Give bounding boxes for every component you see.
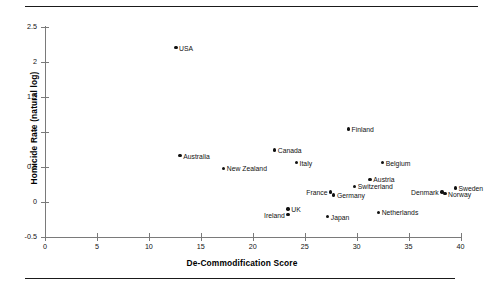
data-point-label: Japan bbox=[331, 213, 350, 220]
data-point-label: Australia bbox=[183, 152, 209, 159]
y-tick-mark bbox=[41, 97, 49, 98]
data-point bbox=[332, 193, 335, 196]
data-point-label: Belgium bbox=[386, 159, 411, 166]
x-tick-label: 35 bbox=[394, 243, 424, 252]
x-tick-mark bbox=[461, 233, 462, 241]
x-tick-label-text: 10 bbox=[134, 243, 164, 251]
data-point-label: Sweden bbox=[459, 184, 484, 191]
x-tick-label: 0 bbox=[30, 243, 60, 252]
x-axis-title: De-Commodification Score bbox=[0, 258, 484, 268]
data-point bbox=[326, 215, 329, 218]
data-point-label: Austria bbox=[373, 176, 394, 183]
figure-container: -0.500.511.522.5 0510152025303540 USAAus… bbox=[0, 0, 484, 287]
y-tick-mark bbox=[41, 202, 49, 203]
y-tick-label: -0.5 bbox=[0, 233, 37, 241]
data-point-label: France bbox=[306, 189, 327, 196]
x-tick-mark bbox=[149, 233, 150, 241]
x-tick-label-text: 0 bbox=[30, 243, 60, 251]
data-point bbox=[286, 213, 289, 216]
data-point bbox=[443, 192, 446, 195]
x-tick-label: 10 bbox=[134, 243, 164, 252]
x-tick-label: 15 bbox=[186, 243, 216, 252]
x-tick-label-text: 20 bbox=[238, 243, 268, 251]
data-point bbox=[174, 46, 177, 49]
x-tick-label: 20 bbox=[238, 243, 268, 252]
data-point bbox=[381, 161, 384, 164]
y-tick-mark bbox=[41, 27, 49, 28]
y-tick-mark bbox=[41, 167, 49, 168]
x-tick-label-text: 15 bbox=[186, 243, 216, 251]
data-point-label: USA bbox=[179, 44, 193, 51]
data-point-label: Denmark bbox=[411, 189, 439, 196]
y-tick-mark bbox=[41, 132, 49, 133]
x-tick-label-text: 35 bbox=[394, 243, 424, 251]
x-tick-label: 30 bbox=[342, 243, 372, 252]
x-tick-label-text: 25 bbox=[290, 243, 320, 251]
x-tick-label-text: 5 bbox=[82, 243, 112, 251]
x-tick-mark bbox=[45, 233, 46, 241]
x-tick-mark bbox=[97, 233, 98, 241]
x-tick-label: 25 bbox=[290, 243, 320, 252]
x-tick-label-text: 40 bbox=[446, 243, 476, 251]
x-tick-mark bbox=[305, 233, 306, 241]
x-tick-label: 5 bbox=[82, 243, 112, 252]
x-tick-mark bbox=[409, 233, 410, 241]
x-tick-mark bbox=[253, 233, 254, 241]
data-point-label: Finland bbox=[352, 125, 374, 132]
data-point bbox=[368, 178, 371, 181]
data-point bbox=[222, 167, 225, 170]
data-point bbox=[273, 148, 276, 151]
data-point bbox=[286, 207, 289, 210]
data-point-label: Italy bbox=[300, 159, 312, 166]
data-point-label: New Zealand bbox=[227, 165, 267, 172]
x-tick-mark bbox=[201, 233, 202, 241]
data-point bbox=[353, 185, 356, 188]
y-axis-title: Homicide Rate (natural log) bbox=[29, 28, 39, 228]
x-tick-mark bbox=[357, 233, 358, 241]
data-point bbox=[295, 161, 298, 164]
data-point bbox=[347, 127, 350, 130]
data-point-label: UK bbox=[291, 205, 300, 212]
x-tick-label-text: 30 bbox=[342, 243, 372, 251]
scatter-plot: -0.500.511.522.5 0510152025303540 USAAus… bbox=[0, 0, 484, 287]
data-point bbox=[377, 211, 380, 214]
x-tick-label: 40 bbox=[446, 243, 476, 252]
data-point-label: Canada bbox=[278, 146, 302, 153]
data-point-label: Ireland bbox=[264, 211, 285, 218]
data-point bbox=[454, 186, 457, 189]
y-tick-mark bbox=[41, 62, 49, 63]
y-tick-label-text: -0.5 bbox=[0, 233, 37, 240]
data-point bbox=[178, 154, 181, 157]
data-point-label: Germany bbox=[337, 191, 365, 198]
data-point-label: Netherlands bbox=[382, 209, 419, 216]
data-point-label: Switzerland bbox=[358, 183, 393, 190]
